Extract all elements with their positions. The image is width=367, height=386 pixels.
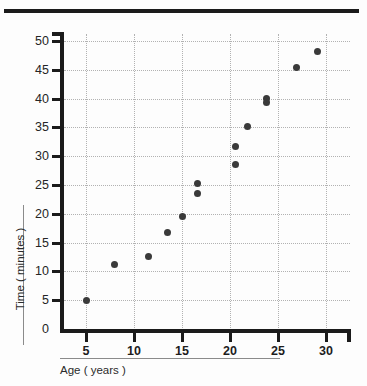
data-point xyxy=(263,99,270,106)
y-tick-mark xyxy=(52,40,61,43)
y-axis-line xyxy=(60,32,64,332)
data-point xyxy=(164,229,171,236)
x-tick-mark xyxy=(277,333,280,342)
x-tick-label: 25 xyxy=(265,345,291,357)
gridline-horizontal xyxy=(64,70,350,71)
x-tick-label: 20 xyxy=(217,345,243,357)
y-tick-mark xyxy=(52,242,61,245)
data-point xyxy=(145,253,152,260)
y-axis-top-cap xyxy=(52,32,64,36)
gridline-vertical xyxy=(182,34,183,330)
data-point xyxy=(314,48,321,55)
data-point xyxy=(194,180,201,187)
x-axis-title-rule xyxy=(60,358,280,359)
data-point xyxy=(111,261,118,268)
x-axis-line xyxy=(60,329,351,333)
y-tick-mark xyxy=(52,184,61,187)
scatter-plot: 05101520253035404550 51015202530 Time ( … xyxy=(0,0,367,386)
x-tick-mark xyxy=(229,333,232,342)
x-tick-label: 5 xyxy=(73,345,99,357)
gridline-horizontal xyxy=(64,243,350,244)
chart-page: 05101520253035404550 51015202530 Time ( … xyxy=(0,0,367,386)
x-axis-right-cap xyxy=(347,329,351,342)
gridline-vertical xyxy=(326,34,327,330)
x-tick-mark xyxy=(325,333,328,342)
y-tick-mark xyxy=(52,213,61,216)
data-point xyxy=(194,190,201,197)
y-tick-mark xyxy=(52,98,61,101)
y-tick-label: 50 xyxy=(15,35,49,47)
y-tick-mark xyxy=(52,299,61,302)
x-tick-label: 10 xyxy=(121,345,147,357)
x-tick-mark xyxy=(181,333,184,342)
data-point xyxy=(232,143,239,150)
gridline-horizontal xyxy=(64,214,350,215)
gridline-horizontal xyxy=(64,185,350,186)
y-tick-mark xyxy=(52,270,61,273)
gridline-horizontal xyxy=(64,127,350,128)
gridline-vertical xyxy=(86,34,87,330)
y-tick-label: 35 xyxy=(15,121,49,133)
gridline-horizontal xyxy=(64,271,350,272)
gridline-horizontal xyxy=(64,99,350,100)
y-tick-mark xyxy=(52,69,61,72)
y-axis-title-group: Time ( minutes ) xyxy=(2,205,20,345)
gridline-vertical xyxy=(278,34,279,330)
gridline-horizontal xyxy=(64,156,350,157)
y-axis-title: Time ( minutes ) xyxy=(14,204,26,334)
x-tick-label: 15 xyxy=(169,345,195,357)
y-tick-label: 25 xyxy=(15,179,49,191)
x-axis-title: Age ( years ) xyxy=(60,364,126,376)
x-tick-label: 30 xyxy=(313,345,339,357)
y-tick-label: 30 xyxy=(15,150,49,162)
data-point xyxy=(179,213,186,220)
gridline-horizontal xyxy=(64,41,350,42)
gridline-vertical xyxy=(230,34,231,330)
data-point xyxy=(293,64,300,71)
y-tick-label: 40 xyxy=(15,93,49,105)
data-point xyxy=(232,161,239,168)
data-point xyxy=(83,297,90,304)
gridline-vertical xyxy=(134,34,135,330)
y-tick-mark xyxy=(52,155,61,158)
y-tick-mark xyxy=(52,126,61,129)
x-tick-mark xyxy=(133,333,136,342)
y-tick-label: 45 xyxy=(15,64,49,76)
data-point xyxy=(244,123,251,130)
gridline-horizontal xyxy=(64,300,350,301)
x-tick-mark xyxy=(85,333,88,342)
